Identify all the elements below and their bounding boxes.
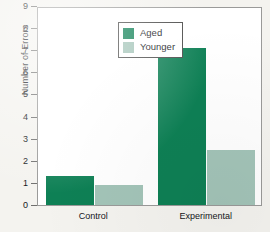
y-axis-tick-label: 8 <box>23 23 28 34</box>
y-axis-tick-label: 4 <box>23 112 28 123</box>
y-axis-tick-label: 1 <box>23 178 28 189</box>
y-axis-tick-label: 3 <box>23 134 28 145</box>
bar-control-younger <box>95 185 143 205</box>
y-axis-tick-label: 2 <box>23 156 28 167</box>
legend-label-aged: Aged <box>140 27 162 39</box>
legend-item-aged: Aged <box>123 26 175 40</box>
y-axis-tick-label: 5 <box>23 89 28 100</box>
legend-item-younger: Younger <box>123 40 175 54</box>
y-axis-tick-label: 9 <box>23 1 28 12</box>
legend-swatch-aged-icon <box>123 28 134 39</box>
legend-swatch-younger-icon <box>123 42 134 53</box>
y-axis-title: Number of Errors <box>20 0 30 130</box>
chart-legend: Aged Younger <box>118 22 183 58</box>
bar-experimental-aged <box>158 48 206 205</box>
y-axis-tick-label: 7 <box>23 45 28 56</box>
y-axis-tick-label: 6 <box>23 67 28 78</box>
y-axis-tick-label: 0 <box>23 200 28 211</box>
legend-label-younger: Younger <box>140 41 175 53</box>
x-axis-label-control: Control <box>37 211 150 221</box>
bar-chart: Number of Errors 0123456789 Aged Younger… <box>0 0 270 232</box>
bar-experimental-younger <box>207 150 255 205</box>
x-axis-label-experimental: Experimental <box>150 211 263 221</box>
plot-area: Aged Younger <box>37 7 262 206</box>
bar-control-aged <box>46 176 94 205</box>
